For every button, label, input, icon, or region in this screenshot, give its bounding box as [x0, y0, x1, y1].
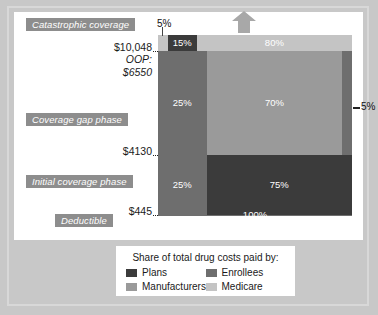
legend-label-enrollees: Enrollees — [222, 267, 264, 278]
segment-manufacturers-70: 70% — [207, 51, 343, 155]
segment-value-enrollees-100: 100% — [158, 209, 352, 220]
segment-medicare-80: 80% — [197, 35, 352, 51]
legend-item-plans: Plans — [126, 267, 206, 278]
legend-item-enrollees: Enrollees — [206, 267, 286, 278]
callout-medicare-right: 5% — [361, 101, 375, 112]
chart-band-catastrophic: 15% 80% — [158, 35, 352, 51]
legend-swatch-manufacturers — [126, 283, 137, 291]
segment-plans-15: 15% — [168, 35, 197, 51]
axis-label-oop: OOP: — [60, 53, 152, 65]
figure-background: Catastrophic coverage Coverage gap phase… — [0, 0, 378, 315]
up-arrow-icon — [231, 10, 257, 34]
chart-band-initial-coverage: 25% 75% — [158, 155, 352, 215]
phase-label-initial-coverage: Initial coverage phase — [26, 175, 133, 188]
chart-band-coverage-gap: 25% 70% — [158, 51, 352, 155]
legend-item-medicare: Medicare — [206, 281, 286, 292]
segment-plans-75: 75% — [207, 155, 353, 215]
segment-value-manufacturers-70: 70% — [207, 97, 343, 108]
stacked-bar-chart: 15% 80% 25% 70% 25% 75% — [158, 35, 352, 216]
segment-value-plans-75: 75% — [207, 179, 353, 190]
callout-dash-right — [353, 107, 360, 109]
segment-medicare-5 — [158, 35, 168, 51]
legend-swatch-medicare — [206, 283, 217, 291]
legend-item-manufacturers: Manufacturers — [126, 281, 206, 292]
legend-swatch-plans — [126, 269, 137, 277]
axis-label-deductible-threshold: $445 — [60, 205, 152, 217]
legend-label-plans: Plans — [142, 267, 167, 278]
axis-label-gap-threshold: $4130 — [60, 145, 152, 157]
segment-medicare-5-gap — [342, 51, 352, 155]
callout-tick-top — [162, 27, 163, 36]
segment-value-plans-15: 15% — [168, 37, 197, 48]
legend-label-medicare: Medicare — [222, 281, 263, 292]
legend-items: Plans Enrollees Manufacturers Medicare — [116, 267, 295, 295]
segment-value-medicare-80: 80% — [197, 37, 352, 48]
legend: Share of total drug costs paid by: Plans… — [116, 246, 295, 296]
segment-value-enrollees-25-init: 25% — [158, 179, 207, 190]
callout-medicare-top: 5% — [157, 18, 171, 29]
legend-label-manufacturers: Manufacturers — [142, 281, 206, 292]
phase-label-coverage-gap: Coverage gap phase — [26, 113, 128, 126]
legend-title: Share of total drug costs paid by: — [116, 252, 295, 263]
segment-enrollees-25-gap: 25% — [158, 51, 207, 155]
phase-label-catastrophic: Catastrophic coverage — [26, 18, 135, 31]
axis-label-oop-value: $6550 — [60, 66, 152, 78]
segment-enrollees-25-init: 25% — [158, 155, 207, 215]
segment-value-enrollees-25-gap: 25% — [158, 97, 207, 108]
legend-swatch-enrollees — [206, 269, 217, 277]
axis-label-catastrophic-threshold: $10,048 — [60, 41, 152, 53]
